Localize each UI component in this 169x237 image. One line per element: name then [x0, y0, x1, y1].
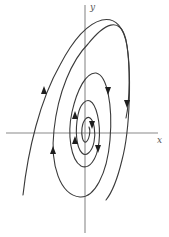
- arrow-up-icon: [41, 86, 47, 94]
- arrow-down-icon: [95, 145, 101, 153]
- outer-left-trajectory: [23, 20, 129, 195]
- arrow-up-icon: [72, 111, 78, 119]
- arrow-up-icon: [50, 146, 56, 154]
- x-axis-label: x: [157, 135, 162, 145]
- y-axis-label: y: [89, 2, 96, 12]
- spiral-trajectory: [53, 25, 129, 200]
- phase-portrait-diagram: y x: [0, 0, 169, 237]
- arrow-down-icon: [105, 87, 111, 95]
